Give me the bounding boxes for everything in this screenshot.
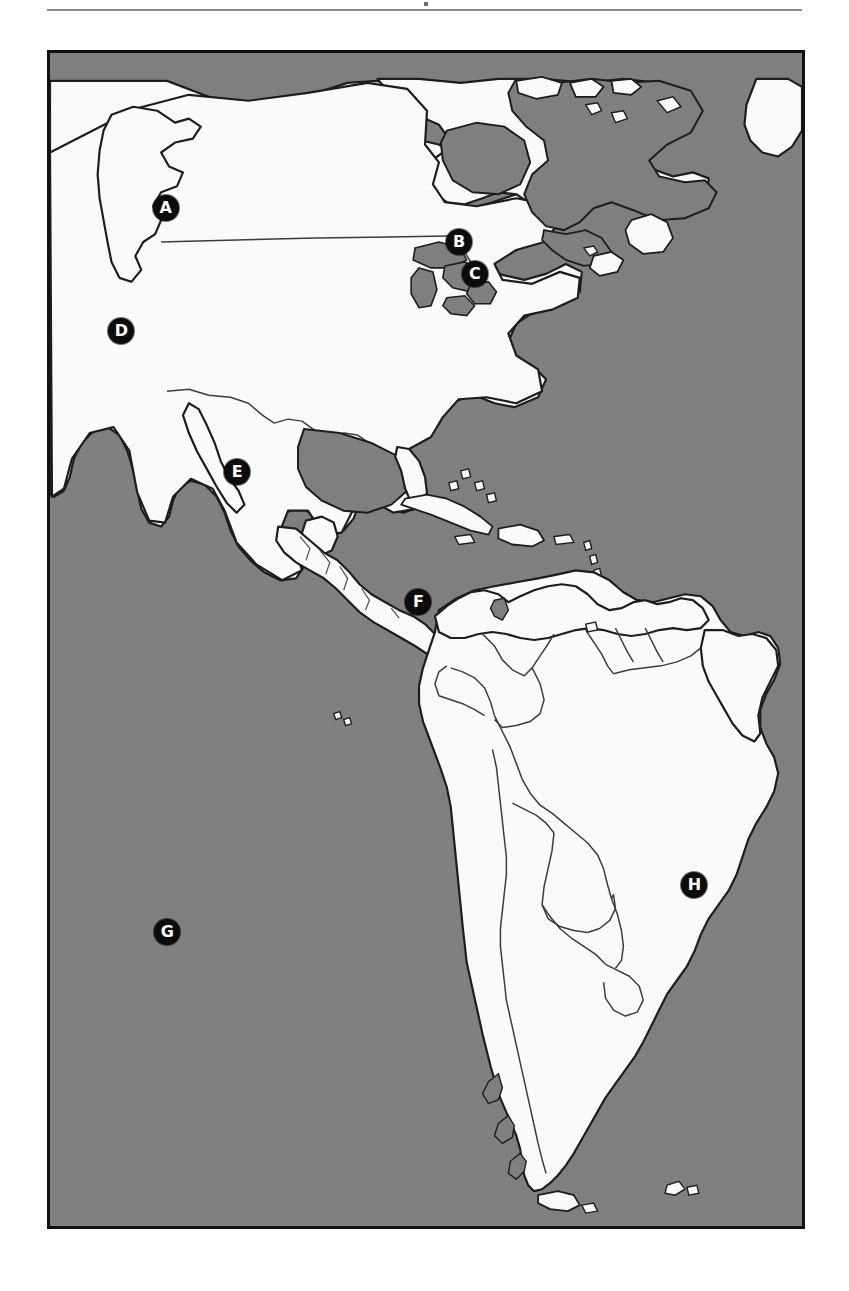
map-marker-c[interactable]: C xyxy=(462,261,488,287)
americas-map-graphic: .land { fill:#ffffff; stroke:#1a1a1a; st… xyxy=(50,53,802,1226)
map-figure: .land { fill:#ffffff; stroke:#1a1a1a; st… xyxy=(47,50,805,1229)
map-marker-b[interactable]: B xyxy=(446,229,472,255)
map-marker-h[interactable]: H xyxy=(681,872,707,898)
map-marker-e[interactable]: E xyxy=(224,459,250,485)
page-header-rule xyxy=(47,9,802,11)
page-header-mark: · xyxy=(424,2,428,6)
map-marker-g[interactable]: G xyxy=(154,919,180,945)
map-marker-a[interactable]: A xyxy=(153,195,179,221)
